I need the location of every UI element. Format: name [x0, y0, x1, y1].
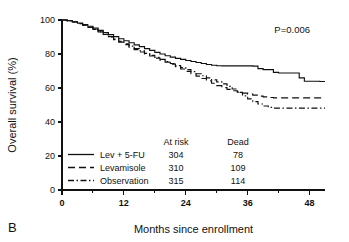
legend-column-header-at-risk: At risk: [163, 137, 189, 147]
panel-letter: B: [8, 220, 17, 235]
survival-chart: 020406080100012243648Months since enroll…: [0, 0, 349, 242]
legend-column-header-dead: Dead: [227, 137, 249, 147]
y-tick-label: 20: [45, 151, 55, 161]
x-tick-label: 12: [119, 198, 129, 208]
legend-dead-value: 114: [231, 176, 245, 186]
y-tick-label: 0: [50, 185, 55, 195]
y-tick-label: 60: [45, 83, 55, 93]
legend-at-risk-value: 310: [168, 163, 183, 173]
legend-at-risk-value: 315: [168, 176, 183, 186]
y-tick-label: 80: [45, 49, 55, 59]
x-tick-label: 24: [181, 198, 191, 208]
legend-at-risk-value: 304: [168, 150, 183, 160]
x-tick-label: 48: [305, 198, 315, 208]
legend-dead-value: 78: [233, 150, 243, 160]
y-tick-label: 100: [40, 15, 55, 25]
legend: P=0.006At riskDeadLev + 5-FU30478Levamis…: [68, 24, 310, 186]
legend-series-label: Observation: [100, 176, 149, 186]
legend-series-label: Lev + 5-FU: [100, 150, 145, 160]
y-axis-title: Overall survival (%): [6, 57, 18, 152]
figure-panel-b: 020406080100012243648Months since enroll…: [0, 0, 349, 242]
p-value-annotation: P=0.006: [274, 24, 310, 35]
axes: [58, 20, 325, 195]
x-axis-title: Months since enrollment: [134, 223, 253, 235]
y-tick-label: 40: [45, 117, 55, 127]
x-tick-label: 36: [243, 198, 253, 208]
legend-series-label: Levamisole: [100, 163, 146, 173]
x-tick-label: 0: [59, 198, 64, 208]
axis-labels: 020406080100012243648Months since enroll…: [6, 15, 315, 235]
legend-dead-value: 109: [230, 163, 245, 173]
